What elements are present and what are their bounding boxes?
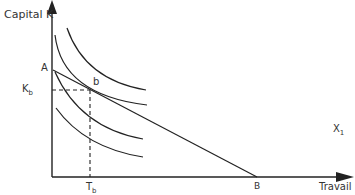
tb-label-sub: b: [92, 187, 96, 195]
tb-label: Tb: [86, 182, 97, 195]
x1-label-sub: 1: [340, 129, 344, 137]
isoquant-curve-1: [56, 108, 143, 157]
point-B-label: B: [254, 182, 260, 191]
budget-line: [53, 70, 257, 177]
kb-label: Kb: [22, 84, 33, 97]
point-b-label: b: [93, 77, 99, 87]
x1-label-main: X: [333, 123, 340, 134]
isoquant-diagram: Capital K A b Kb Tb B Travail X1: [0, 0, 355, 195]
point-a-label: A: [41, 63, 48, 73]
x1-label: X1: [333, 124, 344, 137]
kb-label-sub: b: [29, 89, 33, 97]
x-axis-label: Travail: [319, 182, 351, 192]
diagram-canvas: [0, 0, 355, 195]
y-axis-label: Capital K: [4, 9, 53, 20]
